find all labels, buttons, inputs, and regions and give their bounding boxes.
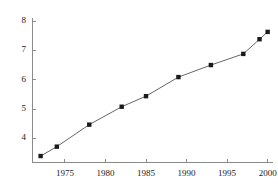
plot-area <box>0 0 278 185</box>
y-axis-tick-label: 6 <box>8 75 26 84</box>
data-point-marker <box>265 30 269 34</box>
data-series <box>38 30 269 159</box>
chart-axes <box>33 18 273 163</box>
data-point-marker <box>38 154 42 158</box>
y-axis-tick-label: 8 <box>8 16 26 25</box>
data-point-marker <box>257 37 261 41</box>
y-axis-tick-label: 5 <box>8 104 26 113</box>
tick-marks <box>33 21 268 162</box>
x-axis-tick-label: 1980 <box>89 169 121 178</box>
y-axis-tick-label: 4 <box>8 133 26 142</box>
line-chart: 45678197519801985199019952000 <box>0 0 278 185</box>
x-axis-tick-label: 1975 <box>49 169 81 178</box>
data-point-marker <box>241 52 245 56</box>
series-line <box>41 32 268 156</box>
x-axis-tick-label: 1990 <box>171 169 203 178</box>
x-axis-tick-label: 2000 <box>252 169 278 178</box>
data-point-marker <box>55 144 59 148</box>
data-point-marker <box>176 75 180 79</box>
x-axis-tick-label: 1985 <box>130 169 162 178</box>
x-axis-tick-label: 1995 <box>211 169 243 178</box>
data-point-marker <box>144 94 148 98</box>
data-point-marker <box>87 122 91 126</box>
y-axis-tick-label: 7 <box>8 45 26 54</box>
data-point-marker <box>119 105 123 109</box>
data-point-marker <box>209 63 213 67</box>
